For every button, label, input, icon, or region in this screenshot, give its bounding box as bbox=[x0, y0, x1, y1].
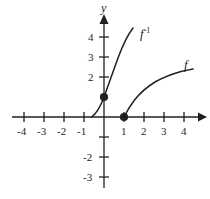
curve-function bbox=[124, 69, 193, 117]
y-axis-label: y bbox=[101, 2, 106, 14]
curve-inverse-function bbox=[92, 28, 133, 117]
graph-canvas bbox=[0, 0, 210, 199]
curve-label-function: f bbox=[184, 58, 188, 71]
point-function-x-intercept bbox=[120, 113, 128, 121]
x-axis-arrow-icon bbox=[198, 113, 207, 122]
y-tick-label-2: 2 bbox=[88, 72, 94, 83]
y-tick-label-3: 3 bbox=[88, 52, 94, 63]
y-axis-arrow-icon bbox=[100, 14, 109, 24]
y-tick-label-minus-2: -2 bbox=[83, 152, 92, 163]
point-inverse-y-intercept bbox=[100, 93, 108, 101]
x-tick-label-minus-3: -3 bbox=[37, 126, 46, 137]
curve-label-inverse-function: f-1 bbox=[140, 27, 150, 40]
x-tick-label-1: 1 bbox=[121, 126, 127, 137]
x-tick-label-3: 3 bbox=[161, 126, 167, 137]
x-tick-label-minus-1: -1 bbox=[77, 126, 86, 137]
y-tick-label-4: 4 bbox=[88, 32, 94, 43]
x-tick-label-minus-2: -2 bbox=[57, 126, 66, 137]
curve-label-inverse-exponent: -1 bbox=[144, 26, 151, 35]
x-tick-label-4: 4 bbox=[181, 126, 187, 137]
x-tick-label-minus-4: -4 bbox=[17, 126, 26, 137]
x-tick-label-2: 2 bbox=[141, 126, 147, 137]
y-tick-label-minus-3: -3 bbox=[83, 172, 92, 183]
function-graph-figure: y 4 3 2 -2 -3 -4 -3 -2 -1 1 2 3 4 f-1 f bbox=[0, 0, 210, 199]
